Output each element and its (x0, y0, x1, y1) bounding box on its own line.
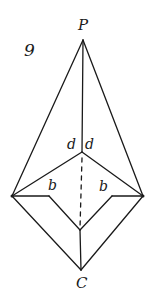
label-apex-p: P (78, 18, 88, 33)
hidden-edge-center-inner (80, 158, 82, 228)
edge-p-right (83, 40, 143, 196)
kite-diagram (0, 0, 152, 308)
edge-p-center (82, 40, 83, 152)
edge-right-c (81, 196, 143, 270)
label-bottom-c: C (76, 276, 87, 291)
edge-inner-c (80, 230, 81, 270)
label-b-left: b (48, 178, 57, 192)
label-d-left: d (67, 137, 76, 151)
vertex-left-dot (11, 195, 14, 198)
edge-p-left (12, 40, 83, 196)
vertex-right-dot (142, 195, 145, 198)
figure-number: 9 (24, 42, 35, 59)
edge-b-left-inner (49, 196, 80, 230)
edge-b-right-inner (80, 196, 112, 230)
label-d-right: d (85, 137, 94, 151)
label-b-right: b (99, 179, 108, 193)
edge-left-c (12, 196, 81, 270)
